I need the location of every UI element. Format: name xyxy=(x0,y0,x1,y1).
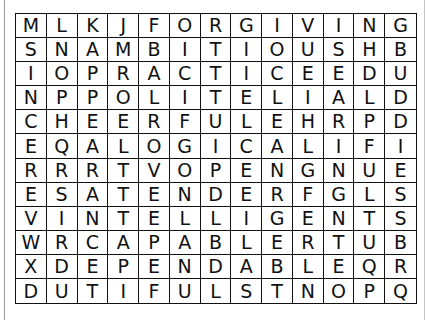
grid-cell[interactable]: R xyxy=(47,159,78,183)
grid-cell[interactable]: I xyxy=(231,62,262,86)
grid-cell[interactable]: I xyxy=(231,207,262,231)
grid-cell[interactable]: T xyxy=(354,207,385,231)
grid-cell[interactable]: R xyxy=(262,183,293,207)
grid-cell[interactable]: N xyxy=(16,86,47,110)
grid-cell[interactable]: Q xyxy=(47,134,78,158)
grid-cell[interactable]: E xyxy=(385,159,416,183)
grid-cell[interactable]: B xyxy=(385,231,416,255)
grid-cell[interactable]: C xyxy=(78,231,109,255)
grid-cell[interactable]: N xyxy=(170,255,201,279)
grid-cell[interactable]: R xyxy=(47,231,78,255)
grid-cell[interactable]: E xyxy=(139,255,170,279)
grid-cell[interactable]: U xyxy=(47,279,78,303)
grid-cell[interactable]: B xyxy=(201,231,232,255)
grid-cell[interactable]: E xyxy=(262,110,293,134)
grid-cell[interactable]: R xyxy=(16,159,47,183)
grid-cell[interactable]: V xyxy=(139,159,170,183)
grid-cell[interactable]: G xyxy=(324,183,355,207)
grid-cell[interactable]: I xyxy=(262,14,293,38)
grid-cell[interactable]: O xyxy=(139,134,170,158)
grid-cell[interactable]: I xyxy=(108,279,139,303)
grid-cell[interactable]: L xyxy=(201,279,232,303)
grid-cell[interactable]: L xyxy=(139,86,170,110)
grid-cell[interactable]: P xyxy=(108,255,139,279)
grid-cell[interactable]: L xyxy=(293,134,324,158)
grid-cell[interactable]: W xyxy=(16,231,47,255)
grid-cell[interactable]: Q xyxy=(354,255,385,279)
grid-cell[interactable]: D xyxy=(201,183,232,207)
grid-cell[interactable]: E xyxy=(293,62,324,86)
grid-cell[interactable]: N xyxy=(262,159,293,183)
grid-cell[interactable]: Q xyxy=(385,279,416,303)
grid-cell[interactable]: L xyxy=(293,255,324,279)
grid-cell[interactable]: E xyxy=(231,86,262,110)
grid-cell[interactable]: S xyxy=(385,183,416,207)
grid-cell[interactable]: U xyxy=(354,231,385,255)
grid-cell[interactable]: E xyxy=(139,183,170,207)
grid-cell[interactable]: E xyxy=(108,110,139,134)
grid-cell[interactable]: I xyxy=(324,14,355,38)
grid-cell[interactable]: N xyxy=(354,14,385,38)
grid-cell[interactable]: J xyxy=(108,14,139,38)
grid-cell[interactable]: A xyxy=(78,38,109,62)
grid-cell[interactable]: I xyxy=(47,207,78,231)
grid-cell[interactable]: U xyxy=(293,38,324,62)
grid-cell[interactable]: N xyxy=(324,159,355,183)
grid-cell[interactable]: A xyxy=(262,134,293,158)
grid-cell[interactable]: F xyxy=(170,110,201,134)
grid-cell[interactable]: G xyxy=(293,159,324,183)
grid-cell[interactable]: G xyxy=(385,14,416,38)
grid-cell[interactable]: T xyxy=(108,207,139,231)
grid-cell[interactable]: I xyxy=(170,38,201,62)
grid-cell[interactable]: L xyxy=(108,134,139,158)
grid-cell[interactable]: E xyxy=(262,231,293,255)
grid-cell[interactable]: E xyxy=(231,159,262,183)
grid-cell[interactable]: C xyxy=(231,134,262,158)
grid-cell[interactable]: O xyxy=(170,159,201,183)
grid-cell[interactable]: E xyxy=(324,255,355,279)
grid-cell[interactable]: P xyxy=(47,86,78,110)
grid-cell[interactable]: E xyxy=(78,110,109,134)
grid-cell[interactable]: D xyxy=(16,279,47,303)
grid-cell[interactable]: F xyxy=(354,134,385,158)
grid-cell[interactable]: K xyxy=(78,14,109,38)
grid-cell[interactable]: L xyxy=(47,14,78,38)
grid-cell[interactable]: L xyxy=(170,207,201,231)
grid-cell[interactable]: P xyxy=(354,279,385,303)
grid-cell[interactable]: X xyxy=(16,255,47,279)
grid-cell[interactable]: L xyxy=(231,110,262,134)
grid-cell[interactable]: G xyxy=(262,207,293,231)
grid-cell[interactable]: S xyxy=(324,38,355,62)
grid-cell[interactable]: R xyxy=(324,110,355,134)
grid-cell[interactable]: A xyxy=(139,62,170,86)
grid-cell[interactable]: T xyxy=(201,38,232,62)
grid-cell[interactable]: O xyxy=(108,86,139,110)
grid-cell[interactable]: U xyxy=(201,110,232,134)
grid-cell[interactable]: F xyxy=(293,183,324,207)
grid-cell[interactable]: G xyxy=(170,134,201,158)
grid-cell[interactable]: B xyxy=(139,38,170,62)
grid-cell[interactable]: P xyxy=(354,110,385,134)
grid-cell[interactable]: D xyxy=(47,255,78,279)
grid-cell[interactable]: R xyxy=(139,110,170,134)
grid-cell[interactable]: C xyxy=(262,62,293,86)
grid-cell[interactable]: D xyxy=(385,110,416,134)
grid-cell[interactable]: O xyxy=(262,38,293,62)
grid-cell[interactable]: I xyxy=(231,38,262,62)
grid-cell[interactable]: U xyxy=(385,62,416,86)
grid-cell[interactable]: O xyxy=(170,14,201,38)
grid-cell[interactable]: P xyxy=(78,86,109,110)
grid-cell[interactable]: I xyxy=(170,86,201,110)
grid-cell[interactable]: I xyxy=(201,134,232,158)
grid-cell[interactable]: R xyxy=(201,14,232,38)
grid-cell[interactable]: L xyxy=(262,86,293,110)
grid-cell[interactable]: S xyxy=(231,279,262,303)
grid-cell[interactable]: P xyxy=(139,231,170,255)
grid-cell[interactable]: L xyxy=(354,86,385,110)
grid-cell[interactable]: M xyxy=(16,14,47,38)
grid-cell[interactable]: M xyxy=(108,38,139,62)
grid-cell[interactable]: G xyxy=(231,14,262,38)
grid-cell[interactable]: B xyxy=(262,255,293,279)
grid-cell[interactable]: T xyxy=(324,231,355,255)
grid-cell[interactable]: I xyxy=(16,62,47,86)
